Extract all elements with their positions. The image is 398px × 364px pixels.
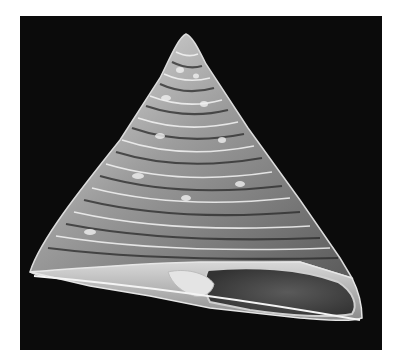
shell-illustration bbox=[20, 16, 382, 350]
shell-spire bbox=[30, 34, 352, 278]
specimen-photo bbox=[20, 16, 382, 350]
